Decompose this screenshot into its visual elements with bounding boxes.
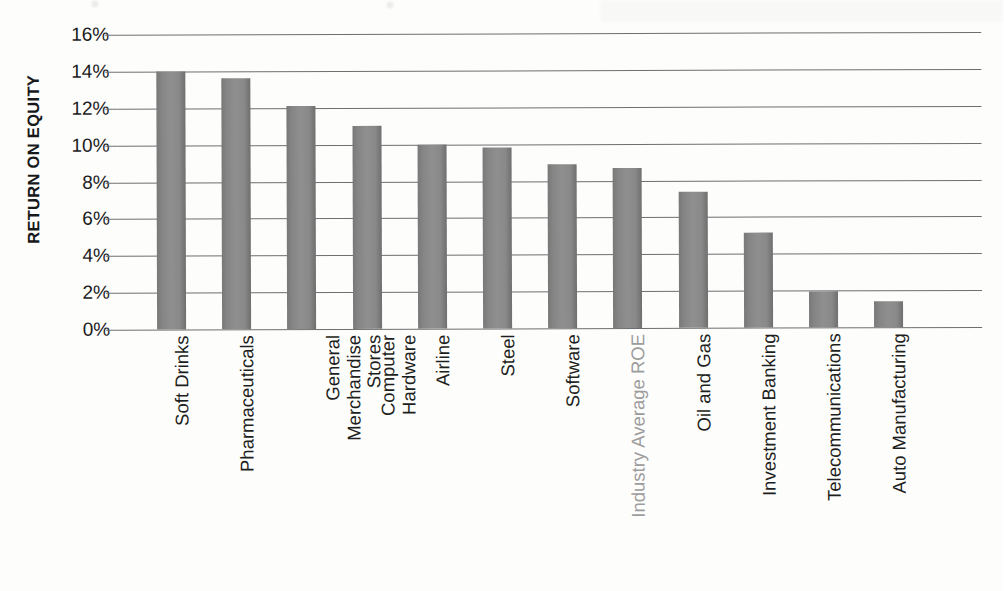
x-axis-label-line: Auto Manufacturing [889,333,910,494]
gridlines [117,32,981,35]
tick-stub [106,145,118,146]
y-axis-title: RETURN ON EQUITY [24,39,44,279]
tick-stub [106,219,118,220]
x-axis-label-line: Merchandise [344,335,365,441]
plot-area [117,32,982,330]
x-axis-label-line: Oil and Gas [694,334,715,432]
y-tick-label: 4% [54,246,110,265]
tick-stub [105,72,117,73]
y-tick-label: 10% [53,135,109,154]
tick-stub [106,182,118,183]
bar [613,168,643,328]
bar [744,233,773,328]
x-axis-label: Industry Average ROE [629,334,650,518]
y-tick-label: 14% [53,62,109,81]
bar [156,71,186,329]
y-tick-label: 0% [54,320,110,339]
y-axis-tick-labels: 16%14%12%10%8%6%4%2%0% [53,0,111,591]
x-axis-label: Oil and Gas [694,334,715,432]
x-axis-label: Pharmaceuticals [237,335,258,472]
gridline [117,69,981,73]
y-tick-label: 12% [53,98,109,117]
x-axis-label-line: Industry Average ROE [629,334,650,518]
x-axis-label: Software [563,334,584,407]
x-axis-label-line: Soft Drinks [172,335,193,426]
x-axis-label: Investment Banking [759,334,780,497]
x-axis-label: Steel [498,334,519,376]
x-axis-label-line: Airline [433,335,454,386]
x-axis-label-line: Software [563,334,584,407]
x-axis-label-line: Telecommunications [824,333,845,501]
x-axis-label-line: General [324,335,345,441]
tick-stub [105,108,117,109]
bar [287,106,317,329]
bar [548,164,578,328]
y-tick-label: 16% [53,25,109,44]
x-axis-label-line: Investment Banking [759,334,780,497]
y-tick-label: 2% [54,283,110,302]
x-axis-label-line: Computer [378,335,399,416]
x-axis-label: Auto Manufacturing [889,333,910,494]
x-axis-category-labels: Soft DrinksPharmaceuticalsGeneralMerchan… [118,333,983,586]
gridline [117,32,981,36]
x-axis-label: ComputerHardware [378,335,420,416]
tick-stub [106,330,118,331]
y-tick-label: 8% [54,172,110,191]
x-axis-label-line: Hardware [399,335,420,416]
tick-stub [106,256,118,257]
bar [678,192,707,328]
y-tick-label: 6% [54,209,110,228]
bar [809,291,838,327]
x-axis-label: Soft Drinks [172,335,193,426]
bar [483,148,513,329]
roe-bar-chart: RETURN ON EQUITY 16%14%12%10%8%6%4%2%0% … [0,0,1004,591]
bar [417,144,447,328]
bar [874,301,903,327]
x-axis-label: Airline [433,335,454,386]
bar [352,126,382,329]
bar [222,78,252,329]
x-axis-label: Telecommunications [824,333,845,501]
x-axis-label-line: Steel [498,334,519,376]
x-axis-label-line: Pharmaceuticals [237,335,258,472]
tick-stub [105,35,117,36]
tick-stub [106,293,118,294]
